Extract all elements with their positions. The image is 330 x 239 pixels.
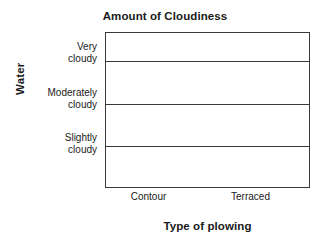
y-tick-line-2: cloudy: [1, 144, 97, 156]
y-axis-tick-label-slightly-cloudy: Slightly cloudy: [1, 132, 97, 155]
y-axis-tick-label-moderately-cloudy: Moderately cloudy: [1, 87, 97, 110]
y-tick-line-1: Slightly: [1, 132, 97, 144]
y-tick-line-1: Very: [1, 41, 97, 53]
y-tick-line-2: cloudy: [1, 99, 97, 111]
gridline-2: [106, 104, 309, 105]
gridline-3: [106, 146, 309, 147]
y-tick-line-2: cloudy: [1, 53, 97, 65]
chart-title: Amount of Cloudiness: [0, 9, 330, 23]
gridline-1: [106, 61, 309, 62]
y-tick-line-1: Moderately: [1, 87, 97, 99]
cloudiness-bar-chart: Amount of Cloudiness Water Very cloudy M…: [0, 0, 330, 239]
x-axis-tick-label-contour: Contour: [105, 191, 192, 203]
y-axis-tick-label-very-cloudy: Very cloudy: [1, 41, 97, 64]
plot-area: [105, 32, 310, 188]
x-axis-title: Type of plowing: [105, 219, 310, 233]
x-axis-tick-label-terraced: Terraced: [207, 191, 294, 203]
